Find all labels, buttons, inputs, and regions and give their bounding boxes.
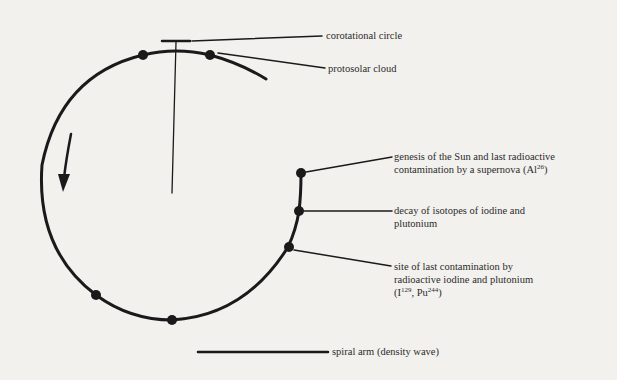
label-genesis: genesis of the Sun and last radioactive … — [394, 150, 555, 176]
label-decay-line2: plutonium — [394, 217, 525, 230]
label-decay-line1: decay of isotopes of iodine and — [394, 204, 525, 217]
label-genesis-line1: genesis of the Sun and last radioactive — [394, 150, 555, 163]
corotational-radius — [172, 42, 176, 193]
label-site-line3: (I129, Pu244) — [394, 286, 533, 299]
label-decay: decay of isotopes of iodine and plutoniu… — [394, 204, 525, 230]
label-genesis-line2: contamination by a supernova (Al26) — [394, 163, 555, 176]
node-bottom — [167, 315, 177, 325]
node-decay — [294, 206, 304, 216]
node-top-left — [138, 50, 148, 60]
leader-protosolar — [218, 53, 325, 68]
node-protosolar-cloud — [205, 50, 215, 60]
label-site-line2: radioactive iodine and plutonium — [394, 273, 533, 286]
leader-corotational — [192, 36, 322, 41]
orbit-path — [41, 51, 288, 320]
leader-site — [294, 250, 391, 266]
label-protosolar-cloud: protosolar cloud — [328, 62, 397, 75]
label-corotational-circle: corotational circle — [326, 29, 402, 42]
node-lower-left — [91, 290, 101, 300]
label-site-contamination: site of last contamination by radioactiv… — [394, 260, 533, 299]
leader-genesis — [306, 157, 392, 172]
rotation-arrow-head-icon — [58, 174, 70, 192]
node-genesis — [296, 168, 306, 178]
legend-spiral-arm-label: spiral arm (density wave) — [332, 345, 439, 358]
galactic-orbit-diagram — [0, 0, 617, 380]
node-site-contamination — [284, 242, 294, 252]
rotation-arrow-shaft — [64, 134, 71, 178]
label-site-line1: site of last contamination by — [394, 260, 533, 273]
